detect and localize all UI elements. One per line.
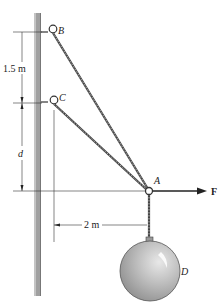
dimension-label-1-5m: 1.5 m	[3, 63, 26, 74]
label-B: B	[58, 25, 64, 36]
label-D: D	[180, 266, 189, 277]
ball-D	[120, 237, 180, 301]
hook-B	[41, 25, 57, 33]
dimension-label-2m: 2 m	[84, 219, 100, 230]
cables	[53, 33, 149, 238]
ring-A	[146, 188, 153, 195]
wall	[34, 13, 41, 296]
label-C: C	[59, 92, 66, 103]
dimension-label-d: d	[18, 148, 24, 159]
dimension-lines	[13, 32, 149, 242]
statics-diagram: 1.5 m d 2 m B C A D F	[0, 0, 223, 302]
hook-C	[41, 96, 58, 104]
label-F: F	[211, 186, 217, 197]
force-arrowhead-icon	[197, 188, 207, 195]
label-A: A	[153, 175, 161, 186]
